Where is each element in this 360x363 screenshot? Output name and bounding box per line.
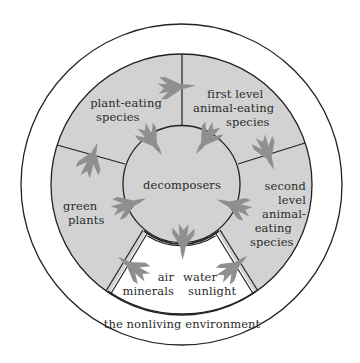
label-line: first level bbox=[193, 87, 289, 101]
label-second-level-animal-eating: second level animal- eating species bbox=[250, 179, 306, 249]
label-line: air bbox=[118, 270, 174, 284]
label-line: water bbox=[183, 270, 253, 284]
label-line: second bbox=[250, 179, 306, 193]
label-line: plants bbox=[63, 213, 104, 227]
ecosystem-diagram: plant-eating species first level animal-… bbox=[0, 0, 360, 363]
label-nonliving-environment: the nonliving environment bbox=[100, 317, 264, 331]
label-line: green bbox=[63, 199, 104, 213]
label-water-sunlight: water sunlight bbox=[183, 270, 253, 298]
label-line: animal-eating bbox=[193, 101, 289, 115]
label-line: sunlight bbox=[183, 284, 253, 298]
label-air-minerals: air minerals bbox=[118, 270, 174, 298]
label-plant-eating-species: plant-eating species bbox=[88, 96, 164, 124]
label-line: species bbox=[88, 110, 164, 124]
label-line: species bbox=[250, 235, 306, 249]
label-line: animal- bbox=[250, 207, 306, 221]
label-first-level-animal-eating: first level animal-eating species bbox=[193, 87, 289, 129]
label-line: minerals bbox=[118, 284, 174, 298]
label-line: eating bbox=[250, 221, 306, 235]
label-line: plant-eating bbox=[88, 96, 164, 110]
label-decomposers: decomposers bbox=[136, 178, 228, 192]
label-green-plants: green plants bbox=[63, 199, 104, 227]
label-line: level bbox=[250, 193, 306, 207]
label-line: species bbox=[193, 115, 289, 129]
